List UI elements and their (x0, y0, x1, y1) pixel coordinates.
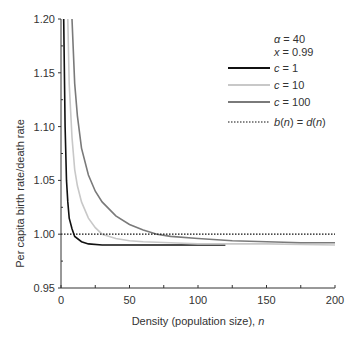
legend-label-1: c = 10 (274, 79, 304, 91)
y-tick-label: 1.20 (34, 13, 55, 25)
y-tick-label: 1.15 (34, 67, 55, 79)
y-tick-label: 1.00 (34, 228, 55, 240)
y-tick-label: 1.10 (34, 121, 55, 133)
legend-label-0: c = 1 (274, 62, 298, 74)
x-tick-label: 50 (123, 294, 135, 306)
legend: α = 40x = 0.99c = 1c = 10c = 100b(n) = d… (228, 33, 326, 128)
y-axis-label: Per capita birth rate/death rate (14, 119, 26, 268)
y-tick-label: 0.95 (34, 282, 55, 294)
series-line-0 (62, 0, 225, 245)
x-axis-label: Density (population size), n (132, 315, 265, 327)
x-tick-label: 200 (326, 294, 344, 306)
legend-label-3: b(n) = d(n) (274, 116, 326, 128)
x-tick-label: 0 (58, 294, 64, 306)
x-tick-label: 100 (189, 294, 207, 306)
legend-label-2: c = 100 (274, 96, 310, 108)
legend-x: x = 0.99 (273, 46, 313, 58)
y-tick-label: 1.05 (34, 174, 55, 186)
x-tick-label: 150 (257, 294, 275, 306)
chart: 0.951.001.051.101.151.20050100150200Dens… (0, 0, 356, 338)
legend-alpha: α = 40 (274, 33, 305, 45)
